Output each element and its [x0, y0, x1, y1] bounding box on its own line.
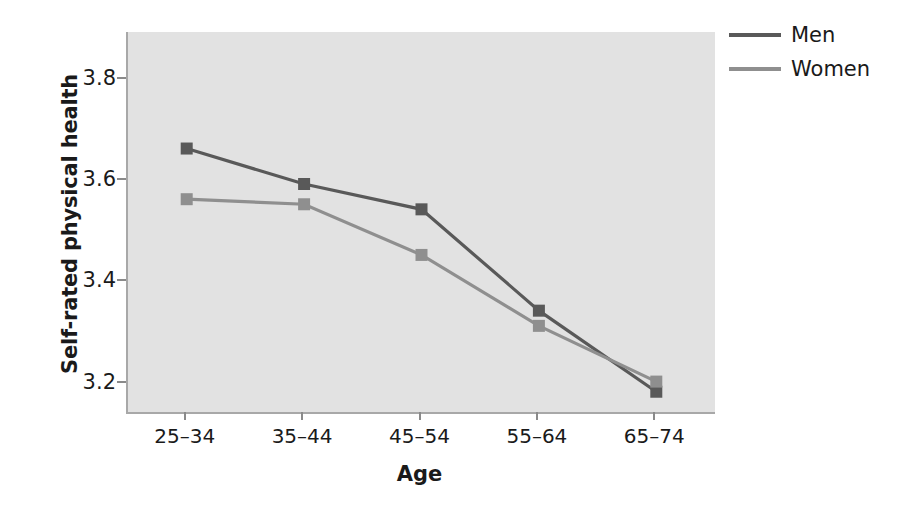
y-axis-tick-labels: 3.23.43.63.8	[56, 0, 116, 512]
x-axis-tick-label: 25–34	[125, 424, 245, 448]
x-axis-tick-label: 55–64	[477, 424, 597, 448]
data-point-marker	[181, 143, 193, 155]
x-axis-title: Age	[126, 462, 713, 486]
y-axis-tick-label: 3.8	[56, 66, 116, 90]
data-point-marker	[533, 305, 545, 317]
y-axis-tick-label: 3.4	[56, 268, 116, 292]
y-axis-tick-mark	[117, 77, 126, 79]
series-plot	[128, 32, 715, 412]
legend-item-women: Women	[729, 52, 889, 86]
legend-line-icon-women	[729, 67, 781, 71]
data-point-marker	[298, 178, 310, 190]
plot-area	[126, 32, 715, 414]
data-point-marker	[533, 320, 545, 332]
x-axis-tick-mark	[536, 412, 538, 420]
x-axis-tick-mark	[184, 412, 186, 420]
y-axis-tick-mark	[117, 178, 126, 180]
series-line-men	[187, 149, 657, 392]
data-point-marker	[181, 193, 193, 205]
data-point-marker	[298, 198, 310, 210]
x-axis-tick-label: 35–44	[242, 424, 362, 448]
x-axis-tick-label: 65–74	[594, 424, 714, 448]
x-axis-tick-label: 45–54	[360, 424, 480, 448]
y-axis-tick-mark	[117, 381, 126, 383]
series-line-women	[187, 199, 657, 381]
data-point-marker	[650, 376, 662, 388]
y-axis-tick-mark	[117, 279, 126, 281]
legend-label-men: Men	[791, 23, 835, 47]
x-axis-tick-mark	[301, 412, 303, 420]
x-axis-tick-mark	[419, 412, 421, 420]
y-axis-tick-label: 3.2	[56, 370, 116, 394]
y-axis-tick-label: 3.6	[56, 167, 116, 191]
data-point-marker	[416, 249, 428, 261]
legend-label-women: Women	[791, 57, 870, 81]
chart-legend: Men Women	[729, 18, 889, 86]
data-point-marker	[416, 203, 428, 215]
chart-figure: Self-rated physical health 3.23.43.63.8 …	[0, 0, 897, 512]
legend-item-men: Men	[729, 18, 889, 52]
legend-line-icon-men	[729, 33, 781, 37]
x-axis-tick-mark	[653, 412, 655, 420]
